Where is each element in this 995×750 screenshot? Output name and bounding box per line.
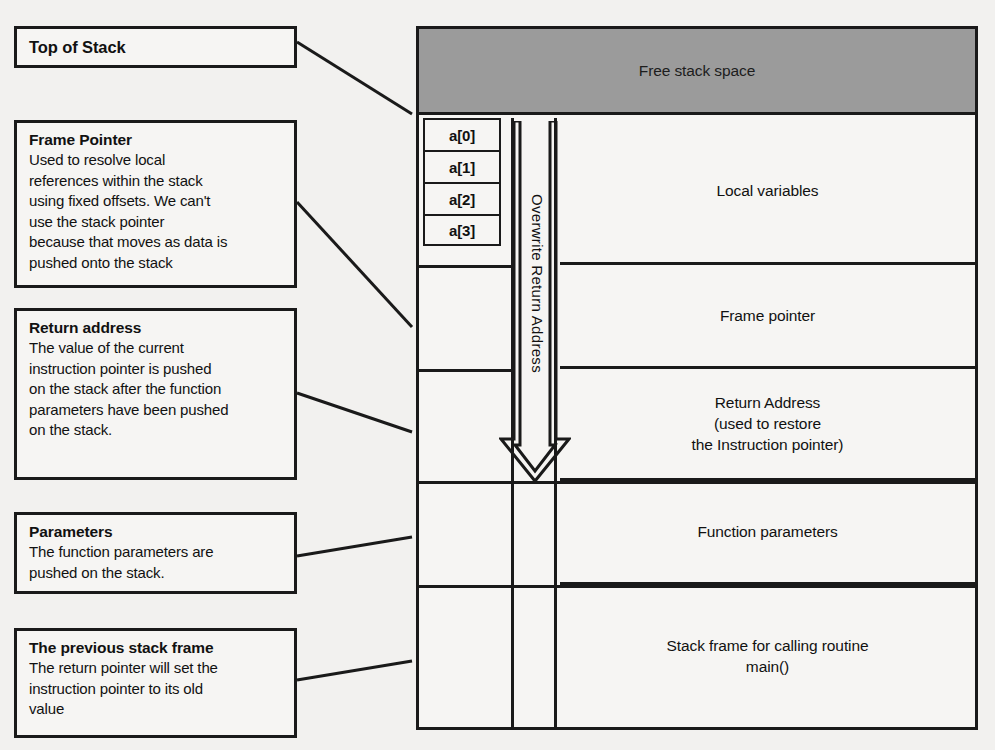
stack-row-function-parameters: Function parameters (560, 481, 975, 585)
stack-row-label: Function parameters (697, 521, 837, 542)
stack-row-label: Return Address (used to restore the Inst… (692, 392, 844, 455)
buffer-cell-a1: a[1] (423, 150, 501, 182)
stack-row-free-space: Free stack space (419, 29, 975, 115)
stack-separator-main (419, 585, 975, 588)
buffer-cell-label: a[3] (449, 222, 475, 239)
stack-row-label: Frame pointer (720, 305, 815, 326)
stack-row-label: Free stack space (639, 60, 755, 81)
callout-previous-stack-frame: The previous stack frame The return poin… (14, 628, 297, 738)
callout-frame-pointer: Frame Pointer Used to resolve local refe… (14, 120, 297, 288)
buffer-cell-label: a[0] (449, 127, 475, 144)
callout-body: The return pointer will set the instruct… (29, 658, 284, 720)
buffer-cell-a0: a[0] (423, 118, 501, 150)
stack-row-calling-routine: Stack frame for calling routine main() (560, 585, 975, 727)
buffer-cell-label: a[2] (449, 191, 475, 208)
callout-title: Parameters (29, 522, 284, 542)
buffer-cell-a2: a[2] (423, 182, 501, 214)
buffer-cell-a3: a[3] (423, 214, 501, 246)
callout-body: The value of the current instruction poi… (29, 338, 284, 441)
buffer-array: a[0] a[1] a[2] a[3] (423, 118, 501, 246)
buffer-cell-label: a[1] (449, 159, 475, 176)
gutter-separator-2 (419, 369, 511, 372)
connector-line-parameters (297, 537, 412, 556)
connector-line-return-address (297, 393, 412, 432)
connector-line-top-of-stack (297, 42, 412, 114)
stack-diagram: Free stack space a[0] a[1] a[2] a[3] Ove… (416, 26, 978, 730)
callout-top-of-stack: Top of Stack (14, 26, 297, 68)
callout-title: Frame Pointer (29, 130, 284, 150)
stack-row-label: Stack frame for calling routine main() (667, 635, 869, 677)
gutter-separator-1 (419, 265, 511, 268)
stack-separator-params (419, 481, 975, 484)
stack-row-frame-pointer: Frame pointer (560, 265, 975, 369)
callout-parameters: Parameters The function parameters are p… (14, 512, 297, 594)
stack-row-return-address: Return Address (used to restore the Inst… (560, 369, 975, 481)
callout-body: The function parameters are pushed on th… (29, 542, 284, 583)
connector-line-frame-pointer (297, 202, 412, 327)
connector-line-previous-frame (297, 661, 412, 680)
callout-title: Return address (29, 318, 284, 338)
callout-body: Used to resolve local references within … (29, 150, 284, 273)
stack-row-local-variables: Local variables (560, 118, 975, 265)
callout-return-address: Return address The value of the current … (14, 308, 297, 480)
callout-title: Top of Stack (29, 37, 126, 57)
callout-title: The previous stack frame (29, 638, 284, 658)
stack-row-label: Local variables (717, 180, 819, 201)
